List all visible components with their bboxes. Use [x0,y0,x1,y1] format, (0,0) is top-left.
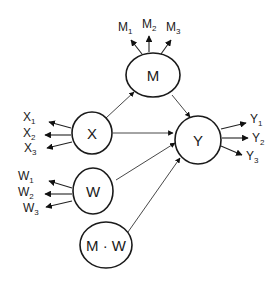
indicator-label-m3: M3 [166,20,181,36]
path-x-to-m [106,92,134,118]
path-mw-to-y [128,158,180,232]
indicator-arrow-x1 [49,122,71,128]
indicator-arrow-w1 [49,181,72,188]
indicator-label-m2: M2 [142,17,157,33]
node-label-x: X [87,125,97,142]
indicator-label-x1: X1 [23,110,36,126]
indicator-arrow-w3 [46,201,72,207]
node-label-w: W [86,183,101,200]
indicator-arrow-m1 [131,40,142,54]
indicator-label-x3: X3 [24,141,37,157]
indicator-label-y2: Y2 [252,131,265,147]
node-label-y: Y [193,132,203,149]
path-w-to-y [116,143,175,180]
indicator-label-y3: Y3 [246,149,259,165]
indicator-arrow-x3 [47,142,72,148]
indicator-label-w1: W1 [18,169,34,185]
indicator-label-y1: Y1 [250,112,263,128]
node-label-m: M [147,67,160,84]
indicator-arrow-y3 [221,146,242,155]
indicator-label-w2: W2 [18,185,34,201]
indicator-arrow-m3 [161,40,171,54]
indicator-arrow-y1 [221,123,246,129]
indicator-label-w3: W3 [23,201,39,217]
node-label-mw: M · W [86,237,127,254]
path-m-to-y [172,95,190,117]
indicator-label-x2: X2 [23,126,36,142]
sem-diagram: M X W Y M · W M1 M2 M3 X1 X2 X3 W1 W2 W3… [0,0,277,281]
indicator-label-m1: M1 [118,20,133,36]
